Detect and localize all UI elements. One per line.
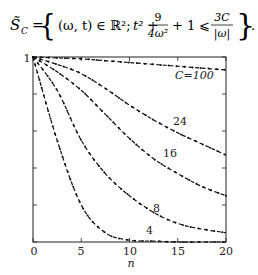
curve-marker xyxy=(79,201,81,203)
curve-marker xyxy=(82,208,84,210)
curve-marker xyxy=(125,101,127,103)
curve-marker xyxy=(126,193,128,195)
curve-marker xyxy=(135,144,137,146)
formula-frac1-denominator: 4ω² xyxy=(147,27,168,40)
curve-marker xyxy=(43,95,45,97)
curve-marker xyxy=(37,62,39,64)
curve-marker xyxy=(72,57,74,59)
curve-marker xyxy=(98,165,100,167)
curve-marker xyxy=(131,106,133,108)
curve-marker xyxy=(84,146,86,148)
curve-marker xyxy=(225,195,227,197)
curve-marker xyxy=(46,64,48,66)
curve-marker xyxy=(187,137,189,139)
curve-marker xyxy=(152,118,154,120)
curve-marker xyxy=(87,214,89,216)
curve-marker xyxy=(57,141,59,143)
set-definition-formula: S̃ C = { (ω, t) ∈ ℝ²; t² + 9 4ω² + 1 ⩽ 3… xyxy=(0,0,258,50)
formula-frac1-numerator: 9 xyxy=(155,11,162,24)
curve-marker xyxy=(69,117,71,119)
curve-marker xyxy=(47,61,49,63)
curve-label-c16: 16 xyxy=(163,147,177,160)
curve-marker xyxy=(128,61,130,63)
curve-group xyxy=(32,56,227,243)
curve-marker xyxy=(146,207,148,209)
curve-marker xyxy=(173,130,175,132)
curve-label-c8: 8 xyxy=(153,202,160,215)
x-tick-label-0: 0 xyxy=(31,245,38,258)
curve-marker xyxy=(167,167,169,169)
curve-marker xyxy=(222,241,224,243)
curve-marker xyxy=(203,186,205,188)
curve-marker xyxy=(160,215,162,217)
curve-marker xyxy=(182,224,184,226)
curve-marker xyxy=(138,110,140,112)
curve-marker xyxy=(147,154,149,156)
curve-marker xyxy=(88,152,90,154)
curve-marker xyxy=(55,63,57,65)
curve-label-c4: 4 xyxy=(146,224,153,237)
formula-lhs-subscript: C xyxy=(21,26,28,36)
curve-marker xyxy=(112,121,114,123)
curve-marker xyxy=(216,68,218,70)
curve-marker xyxy=(92,221,94,223)
curve-marker xyxy=(107,116,109,118)
curve-marker xyxy=(214,241,216,243)
curve-marker xyxy=(126,239,128,241)
curve-marker xyxy=(150,240,152,242)
curve-marker xyxy=(91,79,93,81)
curve-marker xyxy=(93,159,95,161)
curve-marker xyxy=(70,68,72,70)
curve-marker xyxy=(53,68,55,70)
curve-marker xyxy=(180,133,182,135)
curve-marker xyxy=(64,57,66,59)
curve-marker xyxy=(188,179,190,181)
curve-marker xyxy=(114,183,116,185)
curve-marker xyxy=(95,104,97,106)
curve-marker xyxy=(39,60,41,62)
curve-marker xyxy=(166,241,168,243)
curve-marker xyxy=(129,138,131,140)
curve-marker xyxy=(40,56,42,58)
curve-marker xyxy=(118,97,120,99)
curve-marker xyxy=(85,75,87,77)
curve-marker xyxy=(184,66,186,68)
curve-marker xyxy=(97,226,99,228)
curve-marker xyxy=(67,171,69,173)
curve-marker xyxy=(190,226,192,228)
curve-marker xyxy=(105,88,107,90)
curve-marker xyxy=(36,71,38,73)
formula-frac2-numerator: 3C xyxy=(214,11,230,24)
curve-marker xyxy=(34,64,36,66)
curve-marker xyxy=(224,153,226,155)
curve-marker xyxy=(190,241,192,243)
curve-marker xyxy=(63,66,65,68)
formula-lhs: S̃ xyxy=(10,16,20,34)
curve-marker xyxy=(167,219,169,221)
curve-marker xyxy=(195,140,197,142)
curve-marker xyxy=(66,78,68,80)
curve-marker xyxy=(101,110,103,112)
curve-marker xyxy=(75,193,77,195)
plot-frame xyxy=(33,57,226,242)
curve-marker xyxy=(109,177,111,179)
curve-marker xyxy=(90,98,92,100)
curve-marker xyxy=(76,132,78,134)
curve-8 xyxy=(33,57,226,233)
curve-marker xyxy=(168,65,170,67)
curve-marker xyxy=(166,126,168,128)
curve-marker xyxy=(118,127,120,129)
curve-marker xyxy=(120,61,122,63)
curve-marker xyxy=(64,163,66,165)
curve-marker xyxy=(103,171,105,173)
curve-marker xyxy=(73,124,75,126)
curve-marker xyxy=(145,114,147,116)
curve-marker xyxy=(78,88,80,90)
curve-marker xyxy=(142,240,144,242)
curve-marker xyxy=(118,237,120,239)
curve-marker xyxy=(176,65,178,67)
curve-marker xyxy=(69,178,71,180)
curve-marker xyxy=(205,229,207,231)
curve-marker xyxy=(174,171,176,173)
curve-marker xyxy=(56,88,58,90)
